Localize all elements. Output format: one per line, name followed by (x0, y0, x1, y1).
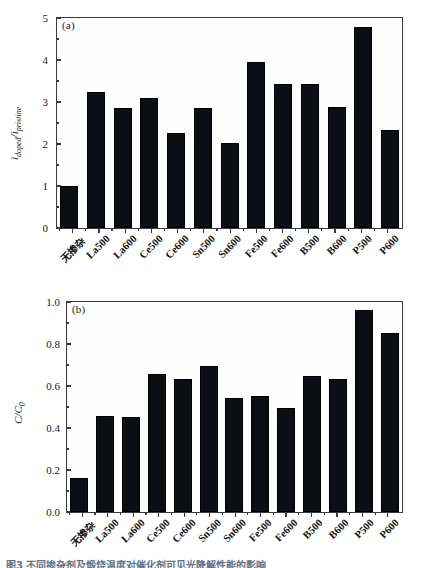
x-axis-category-label: Fe600 (272, 517, 299, 544)
bar (381, 333, 399, 512)
x-axis-minor-tick (120, 512, 121, 515)
x-axis-tick (151, 228, 152, 233)
y-axis-tick (56, 185, 61, 186)
x-axis-minor-tick (269, 228, 270, 231)
x-axis-minor-tick (247, 512, 248, 515)
x-axis-minor-tick (111, 228, 112, 231)
x-axis-tick (230, 228, 231, 233)
x-axis-labels-a: 无掺杂La500La600Ce500Ce600Sn500Sn600Fe500Fe… (57, 231, 402, 283)
y-axis-tick-label: 2 (14, 138, 48, 150)
bar (221, 143, 239, 228)
y-axis-tick (56, 17, 61, 18)
y-axis-tick (56, 59, 61, 60)
x-axis-minor-tick (190, 228, 191, 231)
bar (200, 366, 218, 512)
x-axis-tick (72, 228, 73, 233)
x-axis-tick (107, 512, 108, 517)
x-axis-minor-tick (171, 512, 172, 515)
y-axis-tick-label: 1 (14, 180, 48, 192)
y-axis-minor-tick (56, 38, 59, 39)
bar (148, 374, 166, 512)
x-axis-category-label: 无掺杂 (67, 517, 99, 549)
y-axis-minor-tick (56, 122, 59, 123)
x-axis-minor-tick (216, 228, 217, 231)
x-axis-minor-tick (374, 228, 375, 231)
x-axis-category-label: P500 (351, 233, 374, 256)
bar (87, 92, 105, 228)
chart-panel-b: (b) C/C0 无掺杂La500La600Ce500Ce600Sn500Sn6… (0, 284, 422, 568)
bar (96, 416, 114, 512)
y-axis-title-b-sub: 0 (18, 402, 27, 406)
x-axis-category-label: Ce600 (170, 517, 198, 545)
y-axis-title-b: C/C0 (12, 402, 27, 424)
bar (114, 108, 132, 228)
bar-series-a (57, 18, 402, 228)
y-axis-tick-label: 3 (14, 96, 48, 108)
bar (225, 398, 243, 512)
x-axis-category-label: 无掺杂 (57, 233, 89, 265)
x-axis-tick (387, 512, 388, 517)
x-axis-category-label: Fe500 (247, 517, 274, 544)
y-axis-tick-label: 0.6 (16, 380, 60, 392)
x-axis-minor-tick (145, 512, 146, 515)
chart-panel-a: (a) idoped/ipristine 无掺杂La500La600Ce500C… (0, 0, 422, 284)
bar (381, 130, 399, 228)
x-axis-category-label: B600 (326, 517, 350, 541)
x-axis-category-label: Sn600 (216, 233, 243, 260)
x-axis-category-label: La600 (111, 233, 139, 261)
y-axis-tick-label: 0.0 (16, 506, 60, 518)
x-axis-minor-tick (69, 512, 70, 515)
x-axis-tick (82, 512, 83, 517)
x-axis-category-label: B600 (324, 233, 348, 257)
bar (329, 379, 347, 512)
y-axis-title-a-main: i (8, 157, 20, 160)
x-axis-tick (308, 228, 309, 233)
x-axis-minor-tick (138, 228, 139, 231)
x-axis-tick (282, 228, 283, 233)
x-axis-category-label: La500 (85, 233, 113, 261)
bar (247, 62, 265, 228)
x-axis-tick (362, 512, 363, 517)
x-axis-tick (133, 512, 134, 517)
y-axis-tick (56, 143, 61, 144)
bar (277, 408, 295, 512)
bar (274, 84, 292, 228)
y-axis-minor-tick (66, 322, 69, 323)
x-axis-category-label: Ce500 (144, 517, 172, 545)
x-axis-category-label: Sn600 (221, 517, 248, 544)
x-axis-category-label: P600 (378, 517, 401, 540)
x-axis-tick (203, 228, 204, 233)
x-axis-category-label: La600 (119, 517, 147, 545)
x-axis-minor-tick (348, 228, 349, 231)
x-axis-minor-tick (295, 228, 296, 231)
x-axis-minor-tick (94, 512, 95, 515)
y-axis-minor-tick (66, 448, 69, 449)
x-axis-minor-tick (298, 512, 299, 515)
x-axis-tick (125, 228, 126, 233)
y-axis-tick-label: 1.0 (16, 296, 60, 308)
x-axis-tick (98, 228, 99, 233)
bar (167, 133, 185, 228)
x-axis-category-label: B500 (301, 517, 325, 541)
x-axis-category-label: P600 (377, 233, 400, 256)
y-axis-tick-label: 0 (14, 222, 48, 234)
figure-container: (a) idoped/ipristine 无掺杂La500La600Ce500C… (0, 0, 422, 568)
bar (354, 27, 372, 228)
y-axis-minor-tick (56, 206, 59, 207)
y-axis-tick-label: 0.4 (16, 422, 60, 434)
y-axis-tick (66, 385, 71, 386)
x-axis-category-label: Ce600 (163, 233, 191, 261)
x-axis-tick (184, 512, 185, 517)
y-axis-minor-tick (66, 406, 69, 407)
x-axis-tick (158, 512, 159, 517)
x-axis-minor-tick (324, 512, 325, 515)
x-axis-tick (209, 512, 210, 517)
x-axis-category-label: B500 (298, 233, 322, 257)
bar (301, 84, 319, 228)
x-axis-minor-tick (321, 228, 322, 231)
y-axis-minor-tick (66, 364, 69, 365)
bar (140, 98, 158, 228)
x-axis-minor-tick (273, 512, 274, 515)
y-axis-tick-label: 4 (14, 54, 48, 66)
y-axis-tick-label: 0.8 (16, 338, 60, 350)
